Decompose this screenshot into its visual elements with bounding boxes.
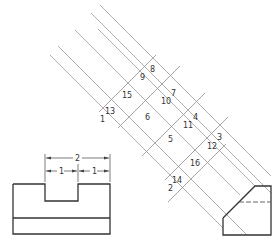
projection-line-3	[75, 30, 240, 195]
projection-line-6	[98, 29, 255, 186]
point-labels: 8 9 15 7 10 13 1 6 4 11 5 3 12 16 14 2	[100, 65, 222, 193]
point-label-14: 14	[172, 176, 182, 185]
point-label-5: 5	[168, 135, 173, 144]
reference-line-d	[165, 117, 228, 180]
dimension-overall-text: 2	[75, 154, 80, 163]
auxiliary-view-diagram: 8 9 15 7 10 13 1 6 4 11 5 3 12 16 14 2 2	[0, 0, 280, 244]
arrowhead-icon	[104, 170, 109, 173]
reference-line-c	[142, 93, 205, 156]
reference-line-e	[168, 144, 226, 202]
point-label-7: 7	[171, 89, 176, 98]
point-label-10: 10	[161, 97, 171, 106]
point-label-9: 9	[140, 73, 145, 82]
front-view	[13, 184, 110, 234]
reference-line-a	[99, 55, 156, 112]
dimension-left-half-text: 1	[59, 167, 64, 176]
arrowhead-icon	[72, 170, 77, 173]
arrowhead-icon	[46, 157, 51, 160]
point-label-2: 2	[168, 184, 173, 193]
point-label-11: 11	[183, 121, 193, 130]
side-view	[223, 186, 271, 235]
dimension-right-half-text: 1	[92, 167, 97, 176]
point-label-12: 12	[207, 142, 217, 151]
reference-lines	[99, 55, 228, 202]
dimensions: 2 1 1	[45, 154, 110, 182]
point-label-3: 3	[217, 133, 222, 142]
point-label-6: 6	[145, 113, 150, 122]
point-label-13: 13	[105, 107, 115, 116]
arrowhead-icon	[104, 157, 109, 160]
front-view-outline	[13, 184, 110, 234]
point-label-4: 4	[193, 113, 198, 122]
point-label-16: 16	[190, 159, 200, 168]
projection-line-1	[50, 55, 223, 228]
side-view-outline	[223, 186, 271, 235]
point-label-1: 1	[100, 115, 105, 124]
point-label-15: 15	[122, 91, 132, 100]
projection-line-4	[91, 13, 271, 193]
arrowhead-icon	[79, 170, 84, 173]
point-label-8: 8	[150, 65, 155, 74]
arrowhead-icon	[46, 170, 51, 173]
projection-lines	[50, 5, 271, 235]
